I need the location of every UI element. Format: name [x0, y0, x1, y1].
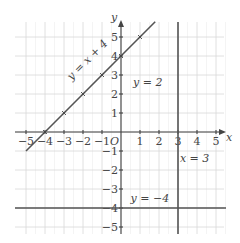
y-tick-label: −1 [102, 145, 118, 158]
y-tick-label: −3 [102, 183, 118, 196]
x-tick-label: 5 [213, 135, 220, 148]
x-axis-label: x [226, 131, 233, 144]
grid [15, 22, 226, 234]
y-axis-arrow-icon [118, 20, 124, 27]
y-tick-label: 3 [111, 69, 118, 82]
y-axis-label: y [110, 11, 118, 24]
y-tick-label: 2 [111, 88, 118, 101]
y-tick-label: 5 [111, 31, 118, 44]
coordinate-graph: x y O −5−4−3−2−112345−5−4−3−2−112345 y =… [0, 0, 240, 243]
x-tick-label: −3 [56, 135, 72, 148]
label-x-equals-3: x = 3 [180, 152, 209, 165]
y-tick-label: 1 [111, 107, 118, 120]
label-y-equals-minus-4: y = −4 [130, 192, 170, 205]
x-axis-arrow-icon [219, 129, 226, 135]
x-tick-label: 4 [194, 135, 201, 148]
annotation-y-equals-2: y = 2 [132, 76, 162, 89]
x-tick-label: 1 [137, 135, 144, 148]
y-tick-label: −2 [102, 164, 118, 177]
x-tick-label: 2 [156, 135, 163, 148]
x-tick-label: −2 [75, 135, 91, 148]
axes: x y O [15, 11, 233, 234]
y-tick-label: −5 [102, 221, 118, 234]
